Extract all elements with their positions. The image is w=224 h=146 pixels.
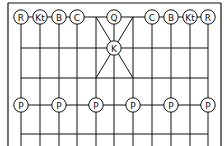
piece-label: R	[205, 13, 211, 23]
piece-label: C	[149, 13, 155, 23]
piece-label: B	[56, 13, 62, 23]
piece-label: Kt	[185, 13, 195, 23]
piece-label: P	[168, 101, 174, 111]
piece-pawn: P	[126, 98, 140, 112]
piece-pawn: P	[14, 98, 28, 112]
piece-cannon: C	[145, 10, 159, 24]
piece-rook: R	[201, 10, 215, 24]
piece-label: R	[18, 13, 24, 23]
piece-pawn: P	[89, 98, 103, 112]
piece-label: Q	[110, 13, 117, 23]
piece-label: P	[130, 101, 136, 111]
piece-label: P	[56, 101, 62, 111]
piece-pawn: P	[164, 98, 178, 112]
piece-knight: Kt	[183, 10, 197, 24]
piece-cannon: C	[70, 10, 84, 24]
piece-knight: Kt	[33, 10, 47, 24]
piece-pawn: P	[201, 98, 215, 112]
piece-bishop: B	[52, 10, 66, 24]
piece-label: P	[93, 101, 99, 111]
piece-label: B	[168, 13, 174, 23]
piece-label: C	[74, 13, 80, 23]
piece-label: P	[205, 101, 211, 111]
game-board: RKtBCQCBKtRKPPPPPP	[0, 0, 224, 146]
piece-queen: Q	[107, 10, 121, 24]
piece-pawn: P	[52, 98, 66, 112]
piece-bishop: B	[164, 10, 178, 24]
piece-label: P	[18, 101, 24, 111]
piece-king: K	[107, 41, 121, 55]
piece-label: Kt	[35, 13, 45, 23]
piece-rook: R	[14, 10, 28, 24]
board-grid	[21, 17, 208, 146]
